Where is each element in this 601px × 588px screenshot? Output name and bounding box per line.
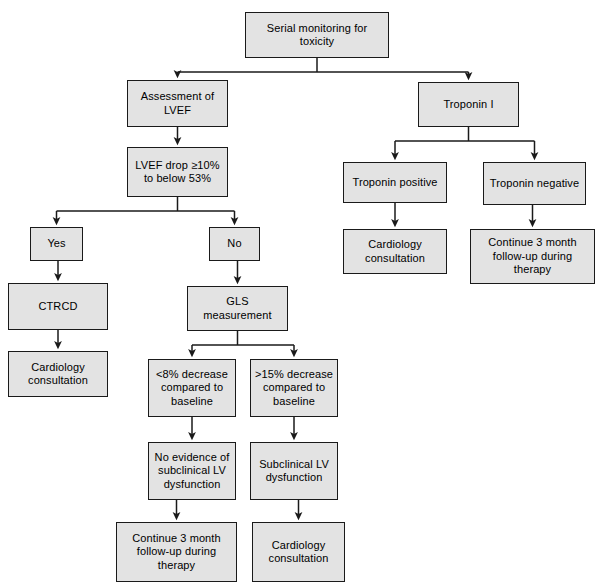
node-label: No <box>224 237 244 251</box>
node-no_subclin[interactable]: No evidence of subclinical LV dysfunctio… <box>148 442 236 500</box>
node-ctrcd[interactable]: CTRCD <box>8 283 108 330</box>
node-root[interactable]: Serial monitoring for toxicity <box>245 12 389 58</box>
node-label: Troponin positive <box>349 176 440 190</box>
node-trop_neg[interactable]: Troponin negative <box>483 162 586 205</box>
node-label: Continue 3 month follow-up during therap… <box>117 532 236 573</box>
node-label: Yes <box>44 237 68 251</box>
node-label: Subclinical LV dysfunction <box>256 458 332 485</box>
node-gls[interactable]: GLS measurement <box>187 286 288 331</box>
node-subclin[interactable]: Subclinical LV dysfunction <box>250 442 338 500</box>
node-label: Troponin negative <box>487 177 582 191</box>
node-troponin[interactable]: Troponin I <box>418 82 519 127</box>
node-label: Continue 3 month follow-up during therap… <box>471 236 594 277</box>
node-label: >15% decrease compared to baseline <box>252 368 336 409</box>
node-gls_low_cont[interactable]: Continue 3 month follow-up during therap… <box>116 522 237 582</box>
node-ctrcd_card[interactable]: Cardiology consultation <box>8 351 108 397</box>
node-label: No evidence of subclinical LV dysfunctio… <box>152 451 233 492</box>
node-no[interactable]: No <box>209 227 260 261</box>
node-label: GLS measurement <box>188 295 287 322</box>
node-lvef_assess[interactable]: Assessment of LVEF <box>127 80 228 127</box>
node-lvef_drop[interactable]: LVEF drop ≥10% to below 53% <box>127 147 228 197</box>
node-label: LVEF drop ≥10% to below 53% <box>132 159 222 186</box>
node-label: Assessment of LVEF <box>138 90 217 117</box>
node-trop_pos_card[interactable]: Cardiology consultation <box>343 229 447 274</box>
node-label: Cardiology consultation <box>266 539 332 566</box>
node-yes[interactable]: Yes <box>30 227 83 261</box>
node-label: Troponin I <box>440 98 496 112</box>
node-gls_high_card[interactable]: Cardiology consultation <box>252 522 345 582</box>
node-label: Cardiology consultation <box>25 361 91 388</box>
node-label: <8% decrease compared to baseline <box>153 368 231 409</box>
node-trop_pos[interactable]: Troponin positive <box>343 162 447 203</box>
node-gls_low[interactable]: <8% decrease compared to baseline <box>148 359 236 417</box>
node-label: Serial monitoring for toxicity <box>246 22 388 49</box>
flowchart-canvas: Serial monitoring for toxicityAssessment… <box>0 0 601 588</box>
node-label: Cardiology consultation <box>362 238 428 265</box>
node-trop_neg_cont[interactable]: Continue 3 month follow-up during therap… <box>470 229 595 284</box>
node-label: CTRCD <box>36 300 81 314</box>
node-gls_high[interactable]: >15% decrease compared to baseline <box>250 359 338 417</box>
